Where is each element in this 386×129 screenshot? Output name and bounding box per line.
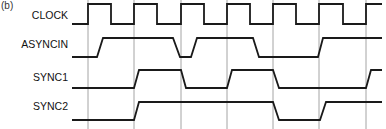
timing-diagram <box>0 0 386 129</box>
waveform-clock <box>72 4 382 24</box>
